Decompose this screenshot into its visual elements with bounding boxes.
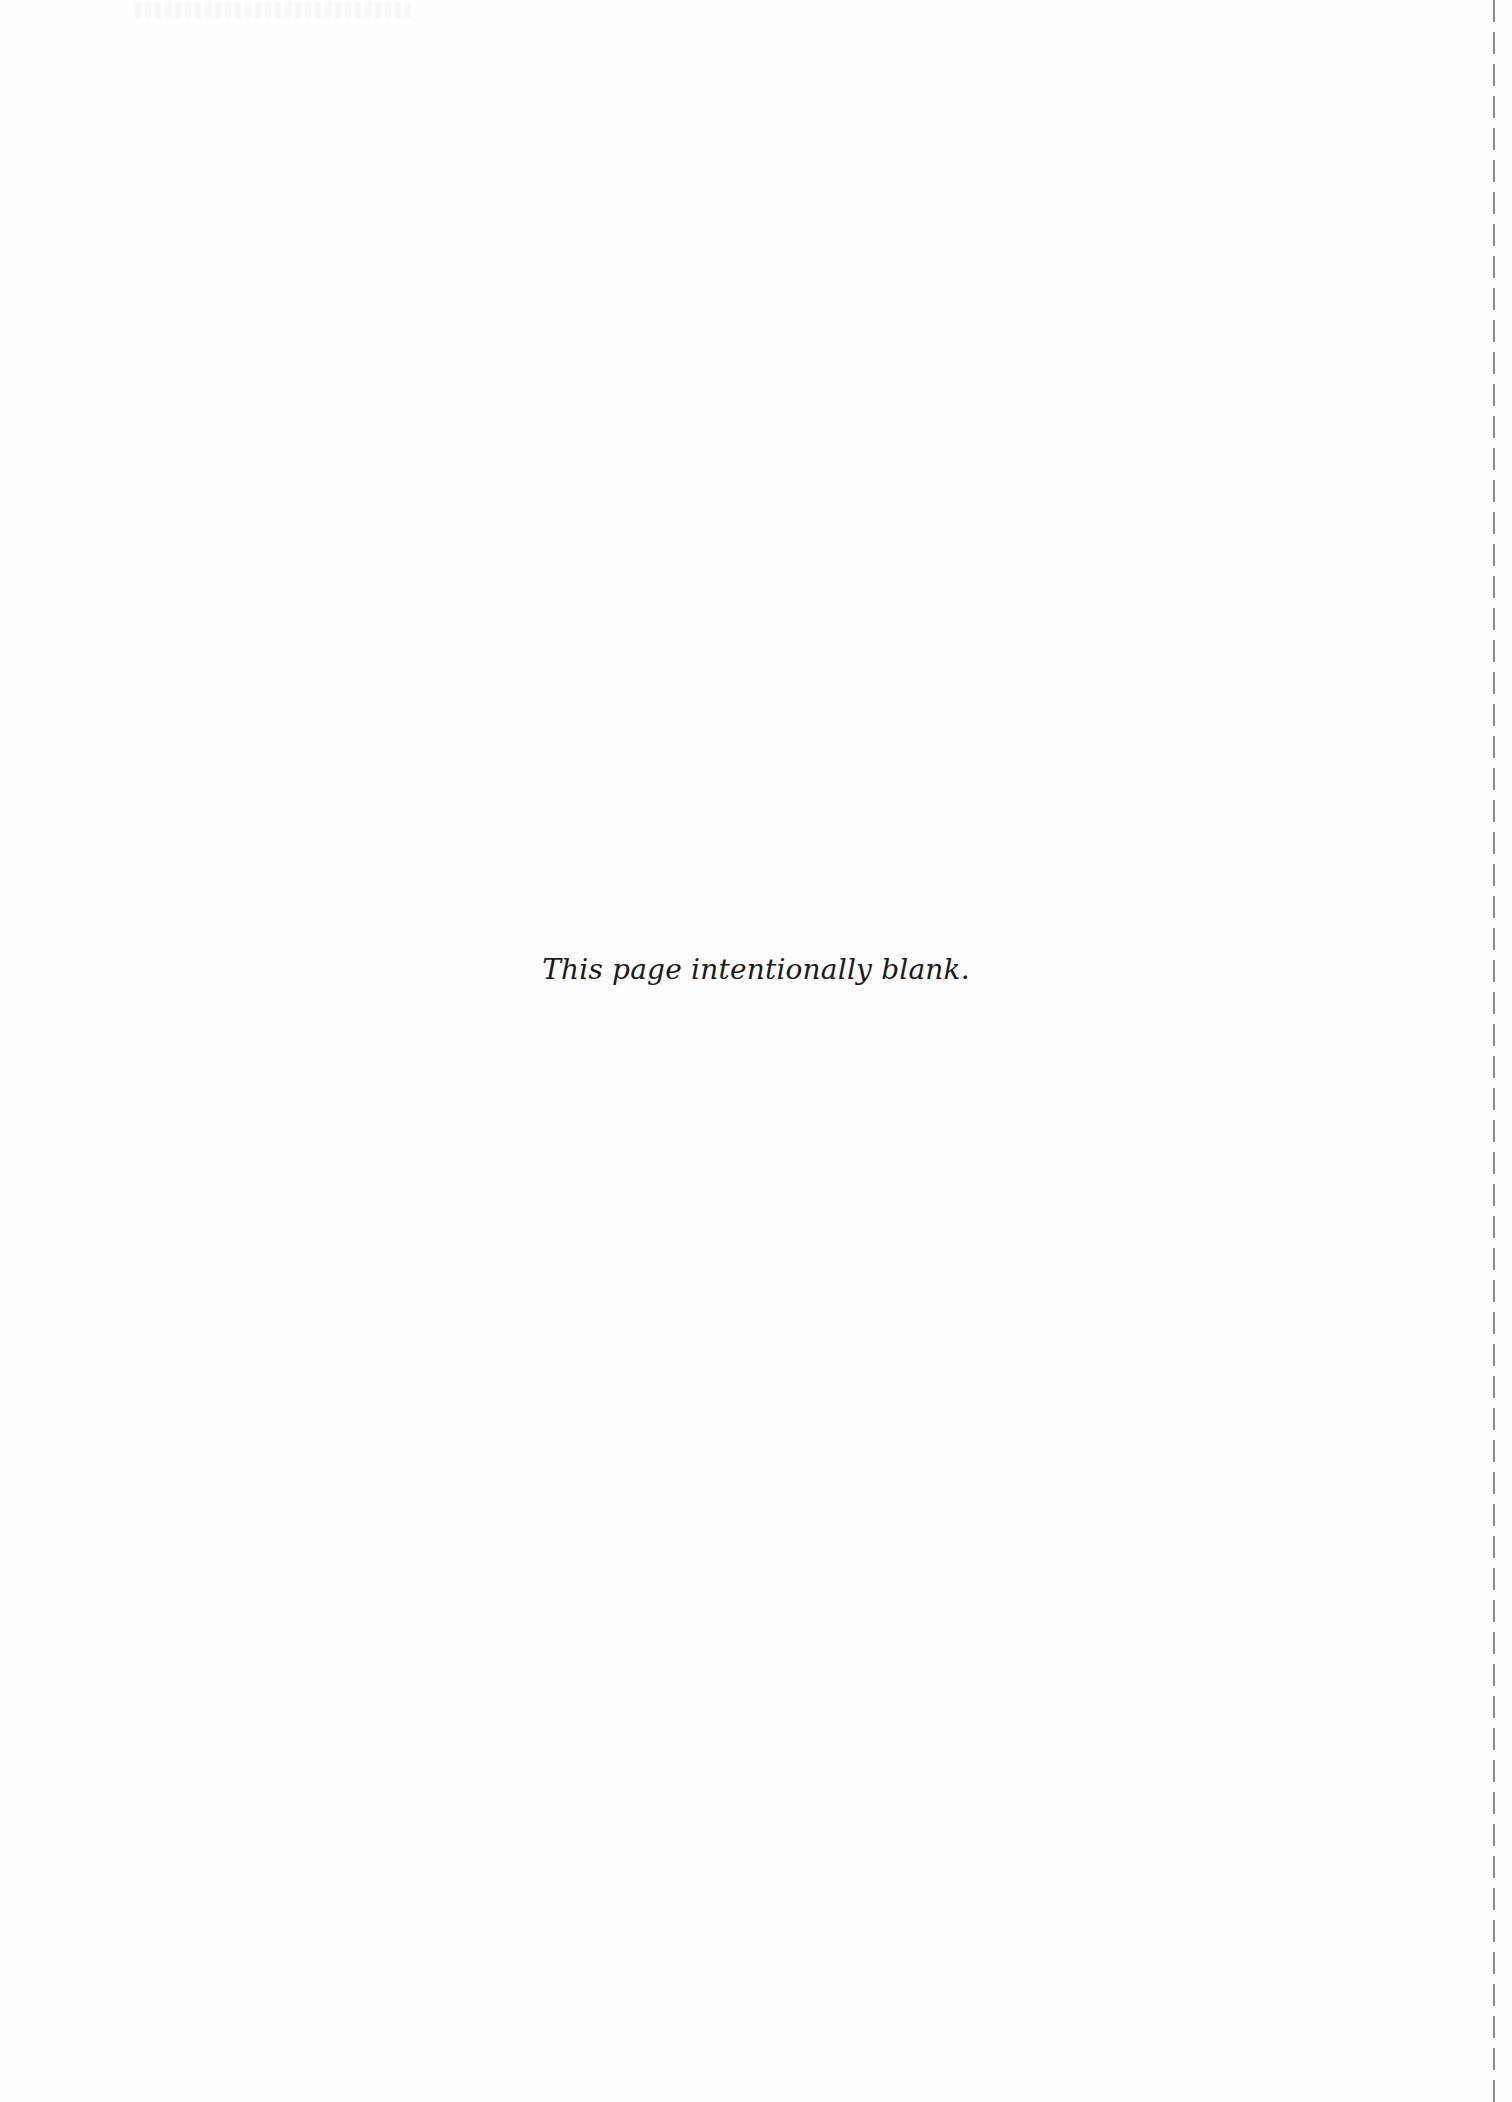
dashed-fold-line (1493, 0, 1495, 2102)
blank-page: This page intentionally blank. (0, 0, 1512, 2102)
blank-page-notice: This page intentionally blank. (0, 953, 1512, 986)
bleed-through-text (135, 2, 415, 18)
